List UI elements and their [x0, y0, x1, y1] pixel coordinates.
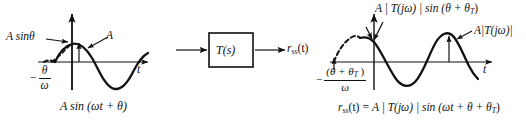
input-phase-minus: −: [30, 72, 39, 84]
block-output-arg: (t): [298, 42, 309, 54]
output-offset-label: A | T(jω) | sin (θ + θT): [375, 3, 478, 16]
output-phase-shift-label: −(θ + θT )ω: [316, 66, 366, 93]
input-phase-fraction: θω: [39, 65, 51, 91]
output-offset-label-main: A | T(jω) | sin (θ + θ: [375, 2, 470, 14]
steady-state-equation: rss(t)=A | T(jω) | sin (ωt + θ + θT): [338, 102, 500, 115]
figure-root: A sinθ A t −θω A sin (ωt + θ) T(s) rss(t…: [0, 0, 526, 125]
output-waveform-dashed: [334, 36, 360, 62]
input-phase-shift-label: −θω: [30, 65, 51, 91]
block-output-label: rss(t): [287, 43, 308, 56]
equation-rhs: A | T(jω) | sin (ωt + θ + θ: [372, 101, 492, 113]
input-offset-arrow: [46, 39, 68, 42]
input-plot-axes: [38, 14, 148, 90]
output-peak-label: A|T(jω)|: [474, 25, 513, 37]
output-phase-numerator-open: (θ + θ: [326, 65, 353, 77]
output-offset-label-tail: ): [474, 2, 478, 14]
equation-equals: =: [359, 101, 372, 113]
input-phase-denominator: ω: [39, 79, 51, 92]
output-phase-denominator: ω: [324, 81, 366, 93]
output-offset-arrow: [374, 22, 383, 40]
input-amplitude-label: A: [106, 30, 113, 42]
equation-lhs-arg: (t): [349, 101, 360, 113]
output-phase-numerator-close: ): [358, 65, 364, 77]
transfer-function-label: T(s): [216, 44, 235, 56]
input-caption: A sin (ωt + θ): [60, 100, 127, 112]
input-waveform: [55, 44, 148, 89]
input-amplitude-leader: [88, 37, 108, 48]
output-waveform: [360, 33, 478, 86]
input-offset-label: A sinθ: [6, 31, 35, 43]
output-phase-fraction: (θ + θT )ω: [324, 66, 366, 93]
output-phase-minus: −: [316, 74, 324, 85]
output-phase-numerator: (θ + θT ): [324, 66, 366, 81]
output-amplitude-leader: [457, 31, 472, 39]
input-phase-numerator: θ: [39, 65, 51, 79]
output-axis-label-t: t: [483, 64, 486, 76]
equation-rhs-tail: ): [496, 101, 500, 113]
input-axis-label-t: t: [137, 64, 140, 76]
